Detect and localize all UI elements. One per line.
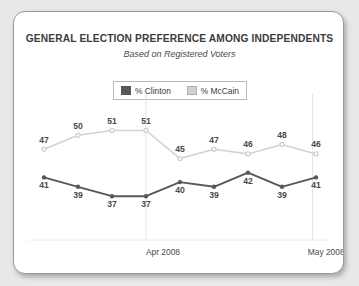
data-point	[76, 133, 80, 137]
data-point	[178, 180, 182, 184]
data-label: 39	[209, 190, 219, 200]
data-point	[314, 152, 318, 156]
data-point	[42, 147, 46, 151]
data-point	[178, 157, 182, 161]
x-axis-label-0: Apr 2008	[146, 247, 180, 257]
data-label: 50	[73, 121, 83, 131]
data-label: 41	[311, 180, 321, 190]
data-point	[246, 152, 250, 156]
data-point	[280, 185, 284, 189]
data-label: 40	[175, 185, 185, 195]
data-label: 47	[39, 135, 49, 145]
data-point	[280, 143, 284, 147]
chart-card: GENERAL ELECTION PREFERENCE AMONG INDEPE…	[13, 11, 344, 274]
data-point	[314, 175, 318, 179]
data-label: 45	[175, 144, 185, 154]
data-label: 51	[107, 116, 117, 126]
data-point	[110, 194, 114, 198]
data-label: 39	[73, 190, 83, 200]
data-label: 47	[209, 135, 219, 145]
data-label: 46	[311, 139, 321, 149]
data-label: 42	[243, 176, 253, 186]
data-label: 39	[277, 190, 287, 200]
data-point	[246, 171, 250, 175]
data-label: 37	[141, 199, 151, 209]
data-label: 37	[107, 199, 117, 209]
data-label: 51	[141, 116, 151, 126]
data-point	[144, 194, 148, 198]
data-point	[212, 185, 216, 189]
chart-plot-area: 475051514547464846413937374039423941Apr …	[14, 12, 344, 274]
data-point	[76, 185, 80, 189]
data-point	[212, 147, 216, 151]
data-point	[110, 129, 114, 133]
data-point	[42, 175, 46, 179]
data-label: 41	[39, 180, 49, 190]
data-point	[144, 129, 148, 133]
data-label: 46	[243, 139, 253, 149]
data-label: 48	[277, 130, 287, 140]
x-axis-label-1: May 2008	[308, 247, 344, 257]
